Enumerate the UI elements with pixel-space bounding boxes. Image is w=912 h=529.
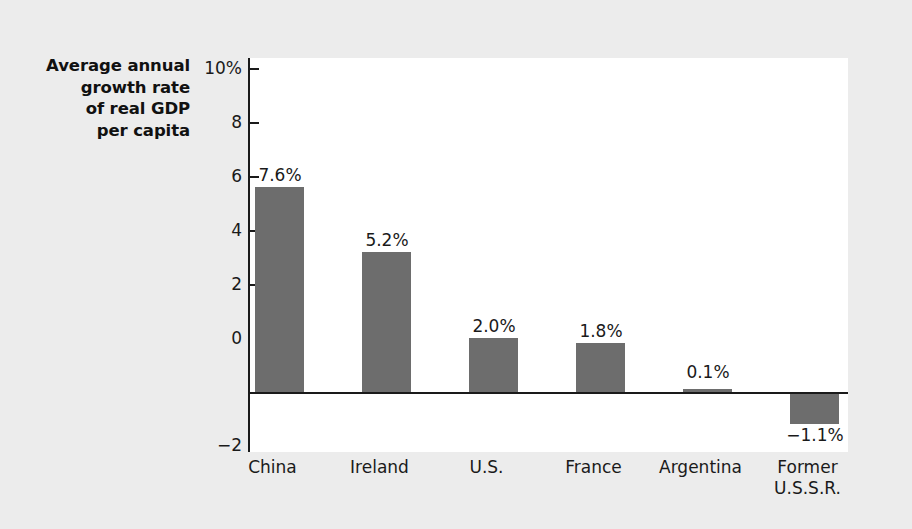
y-axis-title-line-4: per capita xyxy=(8,120,190,142)
x-category-argentina: Argentina xyxy=(643,457,758,478)
bar-former-ussr[interactable] xyxy=(790,394,839,424)
x-category-ireland: Ireland xyxy=(322,457,437,478)
y-axis-tick-0 xyxy=(248,392,259,394)
x-category-france: France xyxy=(536,457,651,478)
y-axis-tick-10 xyxy=(248,68,259,70)
y-axis-title: Average annual growth rate of real GDP p… xyxy=(8,55,190,141)
y-axis-title-line-2: growth rate xyxy=(8,77,190,99)
x-category-france-line-1: France xyxy=(536,457,651,478)
y-axis-tick-8 xyxy=(248,122,259,124)
y-tick-label-0: 0 xyxy=(186,330,242,347)
y-tick-label-4: 4 xyxy=(186,222,242,239)
y-tick-label-neg2: −2 xyxy=(186,437,242,454)
x-category-us: U.S. xyxy=(429,457,544,478)
bar-france[interactable] xyxy=(576,343,625,392)
bar-argentina[interactable] xyxy=(683,389,732,392)
bar-value-label-former-ussr: −1.1% xyxy=(775,426,855,444)
bar-us[interactable] xyxy=(469,338,518,392)
bar-value-label-france: 1.8% xyxy=(561,322,641,340)
bar-value-label-china: 7.6% xyxy=(240,166,320,184)
y-tick-label-8: 8 xyxy=(186,114,242,131)
x-category-former-ussr-line-2: U.S.S.R. xyxy=(750,478,865,499)
x-category-former-ussr-line-1: Former xyxy=(750,457,865,478)
y-axis-title-line-1: Average annual xyxy=(8,55,190,77)
x-category-former-ussr: Former U.S.S.R. xyxy=(750,457,865,499)
x-category-china-line-1: China xyxy=(215,457,330,478)
bar-value-label-us: 2.0% xyxy=(454,317,534,335)
plot-area: 7.6% 5.2% 2.0% 1.8% 0.1% −1.1% xyxy=(248,58,848,452)
x-category-argentina-line-1: Argentina xyxy=(643,457,758,478)
y-tick-label-10: 10% xyxy=(186,60,242,77)
bar-china[interactable] xyxy=(255,187,304,392)
x-category-us-line-1: U.S. xyxy=(429,457,544,478)
y-tick-label-2: 2 xyxy=(186,276,242,293)
bar-chart-figure: Average annual growth rate of real GDP p… xyxy=(0,0,912,529)
y-tick-label-6: 6 xyxy=(186,168,242,185)
bar-ireland[interactable] xyxy=(362,252,411,392)
x-category-china: China xyxy=(215,457,330,478)
bar-value-label-argentina: 0.1% xyxy=(668,363,748,381)
zero-baseline xyxy=(248,392,848,394)
bar-value-label-ireland: 5.2% xyxy=(347,231,427,249)
y-axis-title-line-3: of real GDP xyxy=(8,98,190,120)
x-category-ireland-line-1: Ireland xyxy=(322,457,437,478)
